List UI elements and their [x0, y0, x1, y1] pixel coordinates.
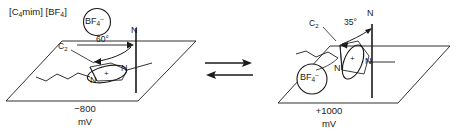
right-ring-n2-label: N	[365, 57, 372, 66]
left-angle-label: 60°	[96, 35, 109, 44]
left-normal-label: N	[131, 26, 138, 35]
left-potential-value: −800	[61, 104, 109, 114]
left-potential-unit: mV	[61, 117, 109, 127]
left-anion-label: BF4−	[85, 17, 104, 28]
left-surface-plane	[6, 41, 196, 101]
left-butyl-chain	[36, 73, 90, 81]
right-c2-sub: 2	[315, 22, 318, 29]
right-ring-n1-label: N	[334, 64, 341, 73]
right-c2-label: C2	[309, 19, 319, 29]
left-ring-charge-label: +	[104, 70, 109, 78]
equilibrium-arrows-group	[205, 59, 253, 79]
right-butyl-chain	[296, 51, 338, 58]
left-angle-arrowhead-start	[94, 58, 101, 65]
compound-title: [C4mim] [BF4]	[9, 7, 67, 19]
right-angle-arrowhead-end	[365, 28, 372, 34]
title-cation-rest: mim] [BF	[22, 6, 60, 17]
left-anion-charge: −	[100, 16, 104, 23]
right-potential-unit: mV	[300, 119, 358, 129]
right-state-group	[278, 24, 450, 103]
title-close: ]	[64, 6, 67, 17]
right-c2-pointer	[323, 27, 336, 41]
right-anion-label: BF4−	[300, 73, 319, 84]
right-anion-charge: −	[315, 72, 319, 79]
figure-canvas: [C4mim] [BF4] BF4− N 60° C2 N N + −800 m…	[0, 0, 456, 132]
left-ring-n2-label: N	[121, 64, 128, 73]
title-cation-open: [C	[9, 6, 19, 17]
right-anion-text: BF	[300, 72, 312, 82]
left-c2-pointer	[71, 50, 94, 63]
left-c2-sub: 2	[64, 45, 67, 52]
left-methyl-bond	[127, 63, 152, 70]
left-c2-label: C2	[58, 42, 68, 52]
left-ring-n1-label: N	[90, 76, 97, 85]
right-angle-label: 35°	[344, 18, 357, 27]
right-ring-charge-label: +	[350, 55, 355, 63]
right-normal-label: N	[367, 9, 374, 18]
right-potential-value: +1000	[300, 106, 358, 116]
left-anion-text: BF	[85, 16, 97, 26]
